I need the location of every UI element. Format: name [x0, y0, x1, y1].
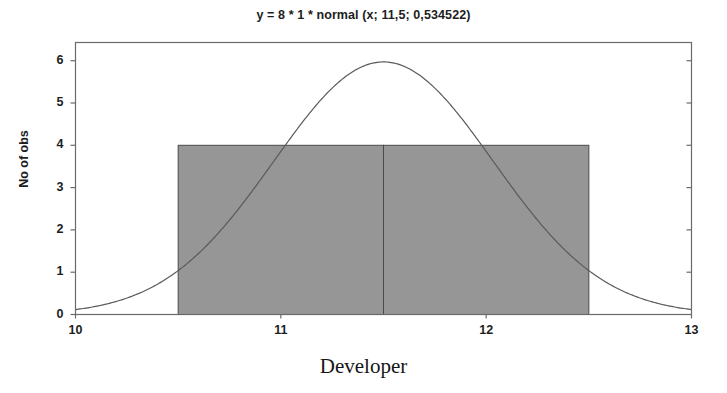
- y-axis-label: No of obs: [17, 99, 31, 219]
- x-tick-label: 12: [466, 323, 506, 337]
- histogram-figure: y = 8 * 1 * normal (x; 11,5; 0,534522) N…: [0, 0, 727, 393]
- y-tick-label: 6: [38, 53, 64, 67]
- y-tick-label: 3: [38, 180, 64, 194]
- histogram-bar: [384, 145, 589, 314]
- x-axis-label: Developer: [0, 354, 727, 379]
- x-tick-label: 10: [56, 323, 96, 337]
- y-tick-label: 2: [38, 222, 64, 236]
- chart-title: y = 8 * 1 * normal (x; 11,5; 0,534522): [0, 8, 727, 22]
- y-tick-label: 4: [38, 137, 64, 151]
- plot-area: [0, 0, 727, 393]
- x-tick-label: 13: [672, 323, 712, 337]
- x-tick-label: 11: [261, 323, 301, 337]
- y-tick-label: 1: [38, 264, 64, 278]
- y-tick-label: 0: [38, 307, 64, 321]
- bars-group: [178, 145, 589, 314]
- y-tick-label: 5: [38, 95, 64, 109]
- histogram-bar: [178, 145, 383, 314]
